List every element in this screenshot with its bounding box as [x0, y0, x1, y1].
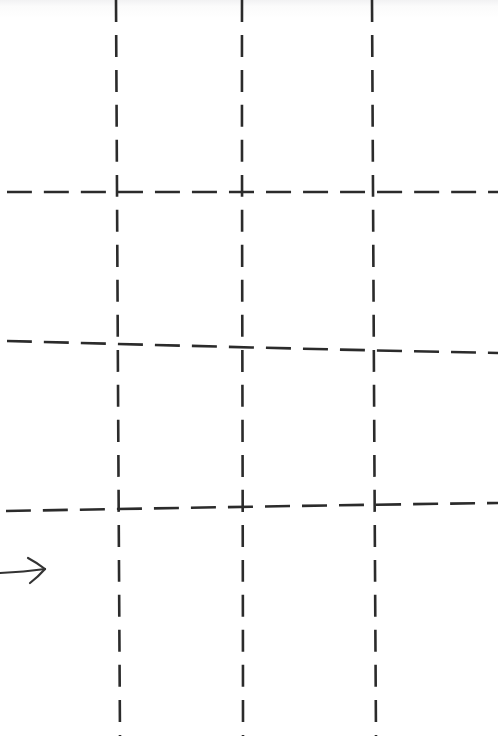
vertical-line-3 — [372, 0, 376, 736]
hand-drawn-arrow — [0, 558, 45, 583]
vertical-line-1 — [116, 0, 120, 736]
sketch-canvas: Dashed grid sketch with arrow annotation… — [0, 0, 498, 736]
arrow-shaft — [0, 569, 45, 573]
horizontal-line-3 — [6, 503, 498, 511]
horizontal-lines-group — [6, 192, 498, 511]
vertical-line-2 — [242, 0, 243, 736]
horizontal-line-2 — [7, 341, 498, 353]
dashed-grid-drawing — [0, 0, 498, 736]
vertical-lines-group — [116, 0, 376, 736]
arrow-head-upper — [28, 558, 45, 569]
